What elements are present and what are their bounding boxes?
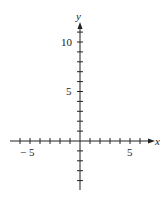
y-tick-label-10: 10 [61, 36, 73, 48]
x-tick-label-neg5: − 5 [20, 146, 35, 158]
x-axis-label: x [154, 135, 160, 147]
x-tick-label-5: 5 [127, 146, 133, 158]
coordinate-axes: − 5 5 5 10 x y [0, 0, 168, 212]
y-axis-label: y [75, 10, 81, 22]
x-axis-arrow-icon [148, 139, 155, 144]
y-axis-arrow-icon [78, 22, 83, 29]
y-tick-label-5: 5 [66, 85, 72, 97]
